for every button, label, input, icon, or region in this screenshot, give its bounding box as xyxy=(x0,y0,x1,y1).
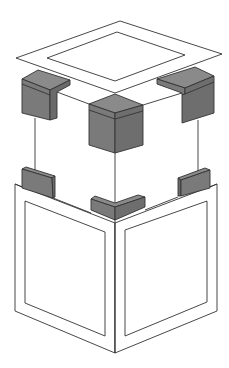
corner-block-back-left xyxy=(22,70,70,120)
corner-block-front xyxy=(89,94,143,153)
assembly-diagram xyxy=(0,0,229,368)
corner-block-back-right xyxy=(157,67,214,123)
